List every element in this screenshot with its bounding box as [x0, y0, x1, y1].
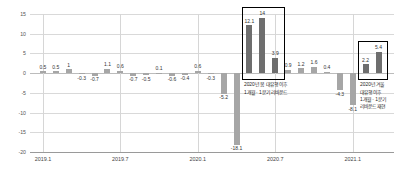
bar — [40, 71, 46, 73]
annotation-spring-rebound: 2020년 봄 대유행 이후 1개월 · 1분기 리바운드 — [244, 81, 287, 96]
bar-value-label: -4.3 — [335, 91, 344, 97]
bar — [337, 73, 343, 90]
gridline — [30, 113, 394, 114]
x-axis-gridline — [43, 14, 44, 152]
y-axis-tick-label: 15 — [20, 11, 26, 17]
bar — [376, 52, 382, 73]
bar-value-label: 0.6 — [117, 63, 124, 69]
bar-value-label: -18.1 — [231, 145, 242, 151]
bar — [298, 68, 304, 73]
bar-value-label: -0.7 — [90, 76, 99, 82]
bar — [259, 18, 265, 73]
x-axis-gridline — [120, 14, 121, 152]
bar-value-label: -0.4 — [181, 75, 190, 81]
bar-chart: 151050-5-10-15-202019.12019.72020.12020.… — [0, 0, 406, 177]
bar — [117, 71, 123, 73]
bar-value-label: -0.3 — [77, 75, 86, 81]
bar-value-label: -0.7 — [129, 76, 138, 82]
x-axis-tick-label: 2020.1 — [190, 156, 207, 162]
bar-value-label: 0.9 — [285, 62, 292, 68]
x-axis-tick-label: 2021.1 — [344, 156, 361, 162]
bar-value-label: 0.5 — [52, 64, 59, 70]
y-axis-tick-label: -10 — [19, 110, 27, 116]
gridline — [30, 14, 394, 15]
gridline — [30, 53, 394, 54]
bar — [156, 73, 162, 74]
x-axis-tick-label: 2019.7 — [112, 156, 129, 162]
bar — [104, 69, 110, 73]
bar-value-label: 1.1 — [104, 61, 111, 67]
bar-value-label: 0.1 — [156, 65, 163, 71]
bar — [53, 71, 59, 73]
bar — [350, 73, 356, 105]
bar — [363, 64, 369, 73]
bar — [234, 73, 240, 144]
bar-value-label: -0.3 — [206, 75, 215, 81]
bar — [311, 67, 317, 73]
bar — [272, 58, 278, 73]
bar-value-label: 0.4 — [323, 64, 330, 70]
bar — [324, 72, 330, 74]
bar-value-label: 2.2 — [362, 57, 369, 63]
bar — [195, 71, 201, 73]
annotation-winter-rebound: 2020년 겨울 대유행 이후 1개월 · 1분기 리바운드 재현 — [360, 81, 386, 110]
bar-value-label: 1.2 — [298, 61, 305, 67]
bar-value-label: -8.1 — [348, 106, 357, 112]
bar-value-label: 0.5 — [39, 64, 46, 70]
bar-value-label: 5.4 — [375, 44, 382, 50]
x-axis-tick-label: 2019.1 — [35, 156, 52, 162]
y-axis-tick-label: -15 — [19, 129, 27, 135]
bar-value-label: -0.5 — [142, 76, 151, 82]
bar-value-label: 1.6 — [310, 59, 317, 65]
plot-area: 151050-5-10-15-202019.12019.72020.12020.… — [30, 14, 394, 152]
bar-value-label: 3.9 — [272, 50, 279, 56]
bar-value-label: 14 — [260, 10, 266, 16]
bar — [221, 73, 227, 94]
y-axis-tick-label: 5 — [23, 50, 26, 56]
y-axis-tick-label: -5 — [21, 90, 26, 96]
bar-value-label: 1 — [67, 62, 70, 68]
y-axis-tick-label: 10 — [20, 31, 26, 37]
y-axis-tick-label: -20 — [19, 149, 27, 155]
x-axis-gridline — [198, 14, 199, 152]
bar-value-label: -0.6 — [168, 76, 177, 82]
bar-value-label: 12.1 — [245, 18, 255, 24]
x-axis-tick-label: 2020.7 — [267, 156, 284, 162]
gridline — [30, 152, 394, 153]
bar — [285, 70, 291, 74]
bar — [66, 69, 72, 73]
bar-value-label: 0.6 — [194, 63, 201, 69]
bar-value-label: -5.2 — [219, 94, 228, 100]
gridline — [30, 34, 394, 35]
y-axis-tick-label: 0 — [23, 70, 26, 76]
gridline — [30, 132, 394, 133]
bar — [246, 25, 252, 73]
